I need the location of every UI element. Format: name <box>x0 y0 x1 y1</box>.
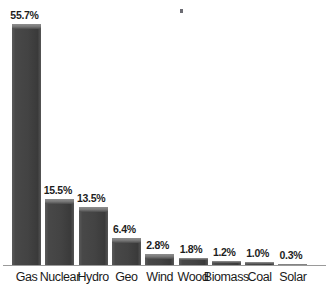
bar-column <box>45 199 74 266</box>
bar-chart: 55.7%15.5%13.5%6.4%2.8%1.8%1.2%1.0%0.3% … <box>0 0 329 298</box>
bar-rect <box>12 24 41 266</box>
bar-biomass: 1.2% <box>210 1 243 266</box>
bar-wind: 2.8% <box>143 1 176 266</box>
bar-nuclear: 15.5% <box>43 1 76 266</box>
bar-rect <box>45 199 74 266</box>
x-axis-line <box>3 265 326 266</box>
x-label-solar: Solar <box>267 270 319 284</box>
plot-area: 55.7%15.5%13.5%6.4%2.8%1.8%1.2%1.0%0.3% <box>0 0 329 266</box>
bar-value-label: 6.4% <box>104 223 145 235</box>
bar-value-label: 13.5% <box>71 192 112 204</box>
bar-coal: 1.0% <box>243 1 276 266</box>
bar-geo: 6.4% <box>110 1 143 266</box>
bar-value-label: 0.3% <box>270 249 311 261</box>
x-axis-labels: GasNuclearHydroGeoWindWoodBiomassCoalSol… <box>0 270 329 294</box>
bar-column <box>12 24 41 266</box>
bar-gas: 55.7% <box>10 1 43 266</box>
bar-column <box>79 207 108 266</box>
bar-solar: 0.3% <box>276 1 309 266</box>
scan-artifact-speck <box>180 9 183 13</box>
bar-value-label: 55.7% <box>4 9 45 21</box>
bar-rect <box>79 207 108 266</box>
bar-wood: 1.8% <box>177 1 210 266</box>
